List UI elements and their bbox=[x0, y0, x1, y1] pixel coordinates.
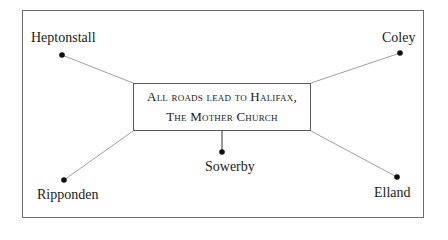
label-heptonstall: Heptonstall bbox=[31, 31, 96, 45]
road-ripponden bbox=[64, 131, 133, 180]
dot-ripponden bbox=[61, 177, 67, 183]
title-line-1: All roads lead to Halifax, bbox=[134, 87, 310, 107]
road-heptonstall bbox=[62, 55, 133, 83]
label-ripponden: Ripponden bbox=[37, 188, 98, 202]
center-title-box: All roads lead to Halifax, The Mother Ch… bbox=[133, 83, 311, 131]
dot-elland bbox=[394, 174, 400, 180]
title-line-2: The Mother Church bbox=[134, 107, 310, 127]
dot-sowerby bbox=[219, 149, 225, 155]
label-elland: Elland bbox=[374, 186, 411, 200]
label-sowerby: Sowerby bbox=[205, 160, 255, 174]
label-coley: Coley bbox=[382, 31, 415, 45]
road-coley bbox=[311, 53, 400, 83]
dot-heptonstall bbox=[59, 52, 65, 58]
dot-coley bbox=[397, 50, 403, 56]
road-elland bbox=[311, 131, 397, 177]
